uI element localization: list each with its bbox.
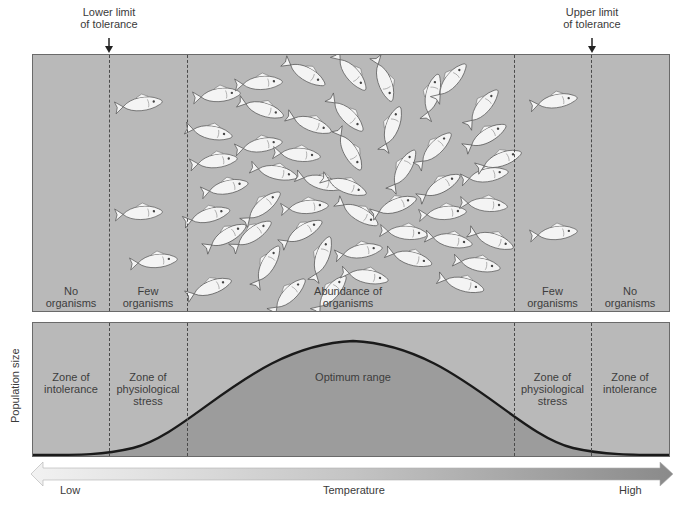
optimum-left-divider [187, 55, 188, 311]
zone-physiological-stress-right: Zone of physiological stress [514, 371, 591, 407]
optimum-right-divider [514, 55, 515, 311]
zone-intolerance-right: Zone of intolerance [591, 371, 669, 395]
lower-limit-label: Lower limit of tolerance [59, 6, 159, 30]
zone-label-no-organisms-right: No organisms [591, 285, 669, 309]
zone-physiological-stress-left: Zone of physiological stress [109, 371, 187, 407]
zone-optimum-range: Optimum range [293, 371, 413, 383]
fish-school-illustration [33, 55, 670, 312]
organism-abundance-panel: No organisms Few organisms Abundance of … [32, 54, 670, 312]
zone-label-few-organisms-right: Few organisms [514, 285, 591, 309]
y-axis-label: Population size [9, 348, 21, 423]
upper-limit-arrow-icon [586, 38, 598, 52]
lower-limit-divider [109, 55, 110, 311]
axis-low-label: Low [60, 484, 80, 496]
optimum-left-divider-curve [187, 323, 188, 456]
upper-limit-line1: Upper limit [542, 6, 642, 18]
upper-limit-line2: of tolerance [542, 18, 642, 30]
zone-label-few-organisms-left: Few organisms [109, 285, 187, 309]
upper-limit-label: Upper limit of tolerance [542, 6, 642, 30]
zone-intolerance-left: Zone of intolerance [33, 371, 109, 395]
tolerance-curve-panel: Zone of intolerance Zone of physiologica… [32, 322, 670, 457]
zone-label-no-organisms-left: No organisms [33, 285, 109, 309]
axis-temperature-label: Temperature [323, 484, 385, 496]
axis-high-label: High [619, 484, 642, 496]
lower-limit-line2: of tolerance [59, 18, 159, 30]
lower-limit-line1: Lower limit [59, 6, 159, 18]
lower-limit-arrow-icon [103, 38, 115, 52]
upper-limit-divider [591, 55, 592, 311]
zone-label-abundance: Abundance of organisms [293, 285, 403, 309]
